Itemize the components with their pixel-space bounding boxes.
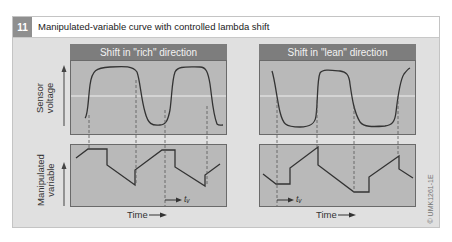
figure-code: © UMK1261-1E [427,168,434,224]
arrow-up-icon [62,162,67,169]
plot-boxes [71,61,416,207]
delay-label-lean: tᵥ [296,194,302,204]
manip-plot-lean [260,145,416,207]
arrow-right-icon [160,213,167,218]
sensor-voltage-label: Sensor voltage [35,75,55,121]
diagram-graphics [0,0,452,242]
delay-label-rich: tᵥ [184,194,190,204]
time-axis-label-rich: Time [127,209,148,220]
manip-plot-rich [71,145,227,207]
arrow-right-icon [349,213,356,218]
manipulated-variable-label: Manipulated variable [36,150,56,210]
arrow-up-icon [62,65,67,72]
y-axis-arrows [62,65,67,206]
time-axis-label-lean: Time [316,209,337,220]
